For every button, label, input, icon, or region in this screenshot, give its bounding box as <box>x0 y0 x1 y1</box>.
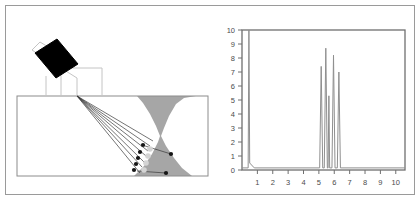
angle-beam-probe <box>35 39 78 78</box>
x-axis-tick-label: 2 <box>271 178 275 187</box>
a-scan-chart-panel: 012345678910 12345678910 <box>210 6 414 194</box>
y-axis-tick-label: 6 <box>231 82 235 91</box>
beam-ray <box>77 96 146 156</box>
y-axis-tick-label: 8 <box>231 54 235 63</box>
specimen-block <box>17 96 208 176</box>
defect-indication <box>138 150 142 154</box>
x-axis-tick-label: 9 <box>378 178 382 187</box>
x-axis-tick-label: 3 <box>286 178 290 187</box>
defect-indication <box>134 162 138 166</box>
chart-x-tick-labels: 12345678910 <box>255 178 400 187</box>
y-axis-tick-label: 3 <box>231 124 235 133</box>
y-axis-tick-label: 5 <box>231 96 235 105</box>
defect-indication <box>147 146 153 152</box>
defect-indication <box>141 167 147 173</box>
beam-ray <box>77 96 140 173</box>
weld-inspection-schematic-panel <box>6 6 209 194</box>
weld-bead <box>134 96 196 176</box>
beam-ray <box>77 96 144 162</box>
defect-indication <box>136 156 140 160</box>
defect-indication <box>169 152 173 156</box>
x-axis-tick-label: 10 <box>392 178 400 187</box>
x-axis-tick-label: 1 <box>255 178 259 187</box>
x-axis-tick-label: 5 <box>317 178 321 187</box>
defect-indication <box>143 160 149 166</box>
beam-ray <box>77 96 148 151</box>
defect-indication <box>132 168 136 172</box>
defect-indication <box>145 153 151 159</box>
defect-indication <box>164 171 168 175</box>
x-axis-tick-label: 8 <box>363 178 367 187</box>
y-axis-tick-label: 1 <box>231 152 235 161</box>
y-axis-tick-label: 0 <box>231 166 235 175</box>
beam-ray <box>77 96 150 146</box>
chart-signal-trace <box>242 30 405 168</box>
y-axis-tick-label: 7 <box>231 68 235 77</box>
x-axis-tick-label: 7 <box>348 178 352 187</box>
y-axis-tick-label: 4 <box>231 110 235 119</box>
beam-rays <box>77 96 153 173</box>
y-axis-tick-label: 9 <box>231 40 235 49</box>
figure-root: 012345678910 12345678910 <box>0 0 420 200</box>
chart-y-tick-labels: 012345678910 <box>227 26 235 175</box>
chart-plot-frame <box>242 30 405 170</box>
beam-ray <box>77 96 142 167</box>
y-axis-tick-label: 2 <box>231 138 235 147</box>
beam-ray <box>77 96 153 141</box>
defect-indication <box>141 143 145 147</box>
x-axis-tick-label: 4 <box>301 178 305 187</box>
x-axis-tick-label: 6 <box>332 178 336 187</box>
y-axis-tick-label: 10 <box>227 26 235 35</box>
